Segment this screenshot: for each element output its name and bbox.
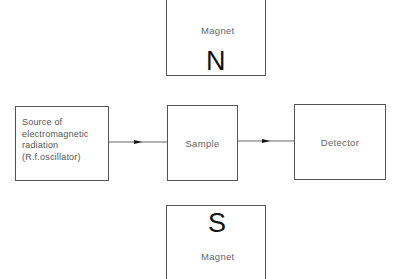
arrowhead-icon <box>262 139 270 143</box>
connector-layer <box>0 0 405 279</box>
arrowhead-icon <box>134 140 142 144</box>
arrow-source-to-sample <box>109 140 167 144</box>
arrow-sample-to-detector <box>238 139 294 143</box>
